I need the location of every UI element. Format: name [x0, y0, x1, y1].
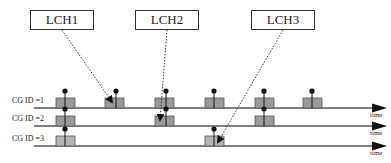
lch-box-2: LCH2 — [135, 10, 199, 30]
time-axis-label: time — [370, 129, 382, 137]
time-axis-label: time — [370, 149, 382, 157]
lch-pointer-arrow — [62, 30, 112, 102]
data-arrival-dot-icon — [261, 106, 266, 111]
transmission-slot — [255, 88, 274, 108]
lch-label: LCH2 — [151, 12, 184, 28]
transmission-slot — [205, 88, 224, 108]
lch-label: LCH1 — [46, 12, 79, 28]
data-arrival-dot-icon — [113, 88, 118, 93]
data-arrival-dot-icon — [163, 106, 168, 111]
lch-label: LCH3 — [267, 12, 300, 28]
data-arrival-dot-icon — [211, 126, 216, 131]
data-arrival-dot-icon — [62, 126, 67, 131]
transmission-slot — [56, 88, 75, 108]
data-arrival-dot-icon — [62, 106, 67, 111]
transmission-slot — [155, 106, 174, 126]
transmission-slot — [303, 88, 322, 108]
transmission-slot — [205, 126, 224, 146]
transmission-slot — [255, 106, 274, 126]
transmission-slot — [56, 126, 75, 146]
data-arrival-dot-icon — [309, 88, 314, 93]
transmission-slot — [105, 88, 124, 108]
transmission-slot — [155, 88, 174, 108]
cg-id-label: CG ID =3 — [12, 134, 44, 143]
cg-id-label: CG ID =1 — [12, 96, 44, 105]
data-arrival-dot-icon — [163, 88, 168, 93]
lch-box-1: LCH1 — [30, 10, 94, 30]
data-arrival-dot-icon — [261, 88, 266, 93]
slots — [56, 88, 322, 146]
lch-box-3: LCH3 — [251, 10, 315, 30]
time-axis-label: time — [370, 111, 382, 119]
data-arrival-dot-icon — [62, 88, 67, 93]
data-arrival-dot-icon — [211, 88, 216, 93]
cg-id-label: CG ID =2 — [12, 114, 44, 123]
transmission-slot — [56, 106, 75, 126]
